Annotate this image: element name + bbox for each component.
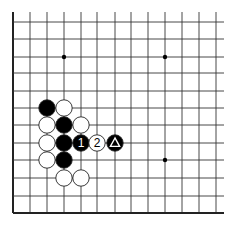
stone-disc [39,135,55,151]
stone-disc [56,170,72,186]
white-stone [56,100,72,116]
white-stone [39,135,55,151]
star-point-icon [62,55,66,59]
go-board: 12 [0,0,236,228]
black-stone [56,135,72,151]
stone-disc [73,117,89,133]
stone-disc [56,100,72,116]
white-stone [39,152,55,168]
stone-disc [73,170,89,186]
stone-disc [39,100,55,116]
black-stone-marked [107,135,123,151]
move-number-label: 1 [78,136,85,150]
stone-disc [56,152,72,168]
stone-disc [39,152,55,168]
black-stone-move-1: 1 [73,135,89,151]
stone-disc [39,117,55,133]
stone-disc [56,117,72,133]
white-stone [73,170,89,186]
black-stone [39,100,55,116]
stone-disc [56,135,72,151]
black-stone [56,117,72,133]
move-number-label: 2 [94,136,101,150]
star-point-icon [163,158,167,162]
white-stone-move-2: 2 [89,135,105,151]
star-point-icon [163,55,167,59]
white-stone [39,117,55,133]
black-stone [56,152,72,168]
white-stone [56,170,72,186]
white-stone [73,117,89,133]
